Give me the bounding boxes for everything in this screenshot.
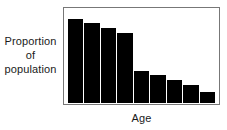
bar-6 bbox=[150, 75, 165, 103]
y-axis-label-line-1: Proportion bbox=[0, 34, 61, 48]
x-axis-label: Age bbox=[63, 112, 220, 125]
bar-7 bbox=[167, 80, 182, 103]
bar-1 bbox=[68, 19, 83, 103]
bar-series bbox=[68, 9, 215, 103]
bar-2 bbox=[84, 23, 99, 103]
bar-9 bbox=[200, 92, 215, 104]
plot-area bbox=[63, 7, 220, 105]
bar-4 bbox=[117, 33, 132, 103]
bar-8 bbox=[183, 85, 198, 103]
bar-chart-figure: Proportion of population Age bbox=[0, 0, 227, 130]
y-axis-label: Proportion of population bbox=[0, 34, 61, 76]
bar-5 bbox=[134, 71, 149, 103]
y-axis-label-line-2: of bbox=[0, 48, 61, 62]
bar-3 bbox=[101, 28, 116, 103]
y-axis-label-line-3: population bbox=[0, 62, 61, 76]
